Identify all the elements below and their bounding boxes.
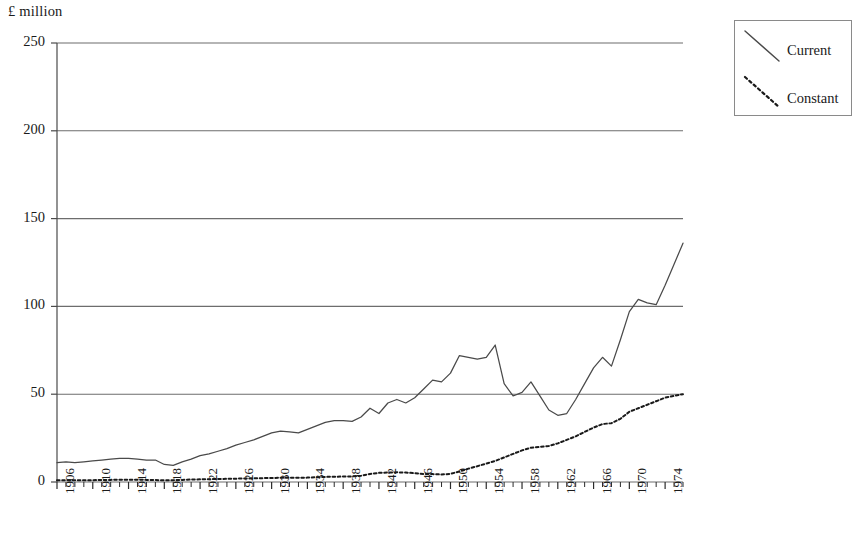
y-tick-label-200: 200 — [0, 121, 45, 138]
y-tick-label-100: 100 — [0, 296, 45, 313]
chart-figure: £ million 050100150200250 19061910191419… — [0, 0, 858, 536]
series-line-constant — [57, 394, 683, 480]
chart-legend: CurrentConstant — [734, 20, 852, 116]
x-tick-label-1966: 1966 — [599, 468, 615, 494]
x-tick-label-1954: 1954 — [491, 468, 507, 494]
x-tick-label-1938: 1938 — [348, 468, 364, 494]
x-tick-label-1922: 1922 — [205, 468, 221, 494]
y-tick-label-0: 0 — [0, 472, 45, 489]
y-tick-label-50: 50 — [0, 384, 45, 401]
x-tick-label-1910: 1910 — [98, 468, 114, 494]
y-axis-unit-label: £ million — [8, 3, 63, 20]
legend-label-constant: Constant — [787, 90, 839, 107]
x-tick-label-1942: 1942 — [384, 468, 400, 494]
x-tick-label-1906: 1906 — [62, 468, 78, 494]
y-tick-label-250: 250 — [0, 33, 45, 50]
x-tick-label-1970: 1970 — [634, 468, 650, 494]
x-tick-label-1918: 1918 — [169, 468, 185, 494]
legend-label-current: Current — [787, 42, 831, 59]
series-line-current — [57, 243, 683, 465]
y-tick-label-150: 150 — [0, 209, 45, 226]
x-tick-label-1974: 1974 — [670, 468, 686, 494]
x-tick-label-1934: 1934 — [312, 468, 328, 494]
legend-swatch-current — [745, 31, 779, 61]
legend-swatch-constant — [745, 77, 779, 107]
x-tick-label-1926: 1926 — [241, 468, 257, 494]
x-tick-label-1958: 1958 — [527, 468, 543, 494]
plot-area — [0, 0, 858, 536]
x-tick-label-1914: 1914 — [134, 468, 150, 494]
x-tick-label-1962: 1962 — [563, 468, 579, 494]
x-tick-label-1950: 1950 — [455, 468, 471, 494]
x-tick-label-1930: 1930 — [277, 468, 293, 494]
x-tick-label-1946: 1946 — [420, 468, 436, 494]
